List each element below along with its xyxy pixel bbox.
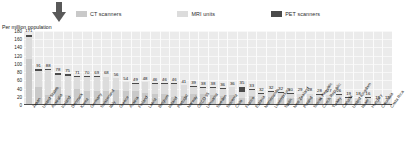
legend-item-0: CT scanners (76, 11, 122, 17)
y-tick-label: 60 (17, 78, 22, 83)
bar-value-label: 46 (152, 78, 157, 82)
bar-value-label: 48 (143, 77, 148, 81)
bar-segment-mri (26, 37, 32, 60)
bar-segment-mri (113, 78, 119, 90)
bar-segment-mri (123, 82, 129, 91)
legend-label: PET scanners (285, 11, 320, 17)
bar-value-label: 78 (56, 68, 61, 72)
legend-item-1: MRI units (177, 11, 215, 17)
bar-value-label: 32 (259, 88, 264, 92)
bar-column: 171 (24, 31, 34, 105)
y-tick-label: 180 (14, 29, 22, 34)
bar-segment-mri (84, 77, 90, 91)
bar-column: 33 (247, 31, 257, 105)
bar-value-label: 91 (36, 64, 41, 68)
bar-value-label: 49 (133, 78, 138, 82)
bar-value-label: 171 (25, 29, 32, 33)
bar-value-label: 33 (249, 84, 254, 88)
y-tick-label: 40 (17, 86, 22, 91)
legend-swatch-icon (271, 11, 282, 17)
bar-segment-mri (103, 77, 109, 91)
y-tick-label: 0 (19, 103, 22, 108)
bar-value-label: 46 (172, 78, 177, 82)
bar-value-label: 46 (162, 78, 167, 82)
legend-swatch-icon (177, 11, 188, 17)
bar-value-label: 36 (220, 83, 225, 87)
x-axis-labels: JapanUnited StatesAustraliaIcelandDenmar… (24, 106, 392, 142)
bar-value-label: 38 (211, 82, 216, 86)
bar-segment-mri (94, 77, 100, 91)
bar-stack (26, 35, 32, 105)
bar-value-label: 38 (201, 82, 206, 86)
bar-column: 46 (169, 31, 179, 105)
y-axis: 020406080100120140160180 (0, 31, 24, 105)
bar-value-label: 71 (75, 71, 80, 75)
bar-column: 49 (131, 31, 141, 105)
bar-column: 91 (34, 31, 44, 105)
bar-segment-ct (26, 59, 32, 105)
bar-value-label: 69 (94, 71, 99, 75)
y-tick-label: 140 (14, 45, 22, 50)
bar-column: 46 (150, 31, 160, 105)
bar-value-label: 70 (85, 71, 90, 75)
bar-segment-mri (161, 84, 167, 94)
bar-column: 35 (237, 31, 247, 105)
bar-value-label: 88 (46, 64, 51, 68)
legend-label: MRI units (191, 11, 215, 17)
bar-segment-mri (132, 84, 138, 92)
legend-swatch-icon (76, 11, 87, 17)
legend-label: CT scanners (90, 11, 122, 17)
legend-item-2: PET scanners (271, 11, 320, 17)
bar-value-label: 35 (240, 81, 245, 85)
bar-value-label: 36 (230, 82, 235, 86)
y-tick-label: 20 (17, 94, 22, 99)
bar-value-label: 56 (114, 73, 119, 77)
bar-segment-mri (152, 84, 158, 94)
y-tick-label: 80 (17, 70, 22, 75)
y-tick-label: 100 (14, 61, 22, 66)
bar-segment-mri (190, 87, 196, 94)
y-tick-label: 120 (14, 53, 22, 58)
bar-value-label: 39 (191, 81, 196, 85)
bar-value-label: 75 (65, 69, 70, 73)
bar-segment-mri (74, 77, 80, 89)
bar-segment-mri (142, 82, 148, 93)
chart-legend: CT scannersMRI unitsPET scanners (0, 9, 396, 19)
bar-value-label: 41 (181, 80, 186, 84)
bar-value-label: 68 (104, 71, 109, 75)
bar-segment-mri (35, 71, 41, 87)
bar-value-label: 54 (123, 77, 128, 81)
bar-segment-mri (65, 76, 71, 95)
y-tick-label: 160 (14, 37, 22, 42)
